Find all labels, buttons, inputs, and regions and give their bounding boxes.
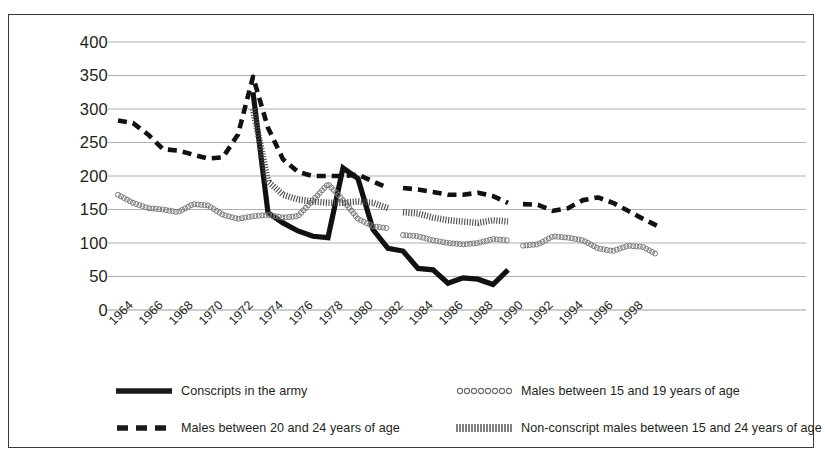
legend-swatch-solid-thick: [116, 384, 172, 398]
legend-item-conscripts: Conscripts in the army: [116, 384, 307, 398]
legend-label-conscripts: Conscripts in the army: [181, 384, 307, 398]
legend-label-males-20-24: Males between 20 and 24 years of age: [181, 421, 400, 435]
legend-item-non-conscript: Non-conscript males between 15 and 24 ye…: [456, 421, 822, 435]
legend-item-males-15-19: Males between 15 and 19 years of age: [456, 384, 740, 398]
legend-label-non-conscript: Non-conscript males between 15 and 24 ye…: [521, 421, 822, 435]
series-layer: [116, 77, 659, 285]
legend-swatch-dashed: [116, 421, 172, 435]
gridlines: [108, 42, 806, 310]
legend-label-males-15-19: Males between 15 and 19 years of age: [521, 384, 740, 398]
legend-swatch-circles: [456, 384, 512, 398]
legend-swatch-hatched: [456, 421, 512, 435]
chart-figure: 400 350 300 250 200 150 100 50 0 1964196…: [0, 0, 825, 467]
legend-item-males-20-24: Males between 20 and 24 years of age: [116, 421, 400, 435]
